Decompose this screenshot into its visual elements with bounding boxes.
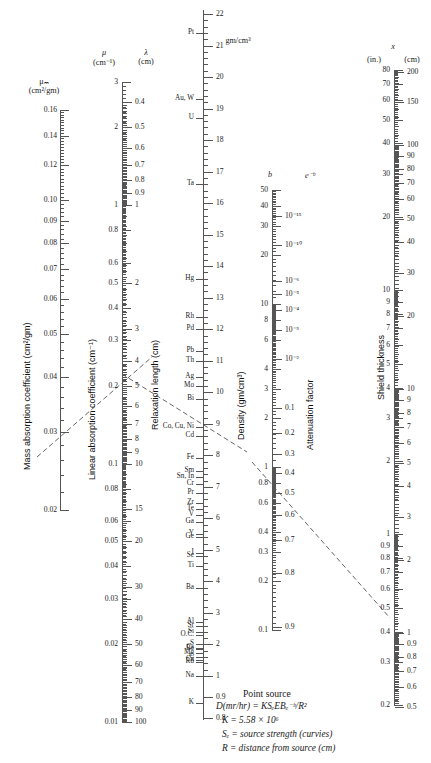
axis-tick (394, 574, 398, 575)
axis-tick (204, 159, 208, 160)
axis-tick (272, 438, 276, 439)
axis-tick (204, 518, 213, 519)
axis-tick (394, 122, 398, 123)
tick-label-lambda: 0.4 (135, 99, 145, 107)
axis-tick (394, 318, 398, 319)
axis-tick (204, 266, 213, 267)
axis-tick (272, 414, 276, 415)
axis-tick (122, 340, 131, 341)
axis-tick (122, 229, 126, 230)
axis-tick (123, 304, 127, 305)
axis-tick (395, 693, 399, 694)
element-marker-tick (196, 329, 203, 330)
tick-label-density: 18 (216, 136, 224, 144)
axis-tick (122, 208, 126, 209)
axis-title-relaxation-length: Relaxation length (cm) (150, 340, 160, 430)
tick-label-mu-m: 0.03 (44, 428, 57, 436)
axis-tick (395, 210, 399, 211)
tick-label-mu-m: 0.12 (44, 162, 57, 170)
tick-label-shield-in: 60 (382, 97, 390, 105)
x-header: x (391, 42, 395, 51)
axis-tick (394, 366, 398, 367)
axis-tick (123, 352, 127, 353)
axis-tick (123, 132, 127, 133)
axis-tick (204, 563, 208, 564)
axis-tick (123, 653, 127, 654)
tick-label-shield-cm: 60 (407, 195, 415, 203)
axis-tick (60, 342, 64, 343)
axis-tick (272, 481, 276, 482)
axis-tick (123, 355, 127, 356)
axis-tick (395, 77, 399, 78)
axis-tick (122, 300, 126, 301)
axis-tick (272, 525, 276, 526)
element-label-Ag: Ag (185, 373, 194, 380)
axis-tick (395, 181, 399, 182)
axis-tick (60, 286, 64, 287)
axis-tick (395, 421, 399, 422)
axis-tick (204, 336, 208, 337)
axis-tick (272, 209, 276, 210)
axis-tick (123, 343, 127, 344)
axis-tick (395, 695, 399, 696)
axis-tick (395, 147, 399, 148)
axis-tick (395, 658, 399, 659)
axis-tick (123, 587, 132, 588)
axis-tick (394, 557, 398, 558)
axis-tick (394, 587, 398, 588)
axis-tick (395, 500, 399, 501)
axis-tick (204, 222, 208, 223)
axis-tick (272, 468, 276, 469)
axis-tick (123, 144, 127, 145)
tick-label-shield-cm: 30 (407, 269, 415, 277)
axis-tick (395, 639, 399, 640)
axis-tick (122, 591, 126, 592)
mu-m-units: (cm²/gm) (29, 86, 60, 95)
axis-tick (204, 134, 208, 135)
axis-tick (123, 403, 127, 404)
axis-tick (122, 487, 126, 488)
element-marker-tick (196, 317, 203, 318)
axis-tick (60, 159, 64, 160)
axis-tick (272, 588, 276, 589)
axis-tick (123, 294, 127, 295)
axis-tick (395, 456, 399, 457)
axis-tick (204, 651, 208, 652)
axis-tick (395, 469, 399, 470)
element-marker-tick (196, 588, 203, 589)
tick-label-density: 12 (216, 325, 224, 333)
axis-tick (395, 194, 399, 195)
axis-tick (395, 445, 399, 446)
axis-tick (395, 665, 399, 666)
axis-tick (123, 125, 127, 126)
axis-tick (122, 585, 126, 586)
axis-tick (272, 504, 276, 505)
axis-tick (122, 210, 126, 211)
axis-tick (272, 568, 276, 569)
axis-tick (123, 583, 127, 584)
axis-tick (204, 323, 208, 324)
tick-label-shield-in: 5 (386, 360, 390, 368)
axis-tick (204, 260, 208, 261)
tick-label-shield-in: 1 (386, 531, 390, 539)
axis-tick (272, 271, 276, 272)
axis-tick (204, 418, 208, 419)
axis-tick (122, 245, 126, 246)
axis-tick (204, 613, 213, 614)
axis-tick (272, 378, 276, 379)
axis-tick (272, 364, 276, 365)
axis-tick (272, 528, 276, 529)
element-marker-tick (196, 399, 203, 400)
tick-label-mu: 0.4 (109, 304, 119, 312)
axis-tick (394, 294, 398, 295)
tick-label-shield-cm: 200 (407, 68, 418, 76)
axis-tick (60, 182, 64, 183)
axis-tick (272, 597, 276, 598)
mu-units: (cm⁻¹) (93, 58, 115, 67)
axis-tick (272, 422, 276, 423)
tick-label-density: 9 (216, 420, 220, 428)
axis-tick (395, 263, 399, 264)
axis-tick (394, 106, 398, 107)
element-marker-tick (196, 649, 203, 650)
axis-tick (204, 14, 213, 15)
